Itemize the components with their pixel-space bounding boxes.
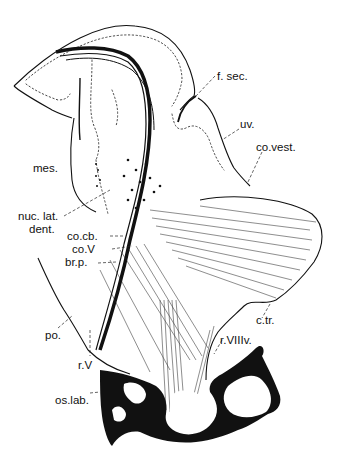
- label-uv: uv.: [240, 118, 255, 130]
- uvula-outline: [198, 98, 250, 186]
- label-r-v: r.V: [78, 359, 92, 371]
- label-br-p: br.p.: [65, 256, 87, 268]
- label-r-viii-v: r.VIIIv.: [220, 334, 252, 346]
- anatomical-figure: f. sec. uv. co.vest. mes. nuc. lat. dent…: [0, 0, 342, 453]
- label-mes: mes.: [33, 162, 58, 174]
- label-co-vest: co.vest.: [256, 141, 296, 153]
- label-co-cb: co.cb.: [67, 230, 98, 242]
- label-co-v: co.V: [72, 243, 95, 255]
- label-nuc-lat: nuc. lat.: [18, 210, 58, 222]
- label-po: po.: [45, 329, 61, 341]
- label-os-lab: os.lab.: [55, 394, 89, 406]
- label-f-sec: f. sec.: [217, 70, 248, 82]
- label-c-tr: c.tr.: [256, 314, 275, 326]
- label-dent: dent.: [29, 223, 55, 235]
